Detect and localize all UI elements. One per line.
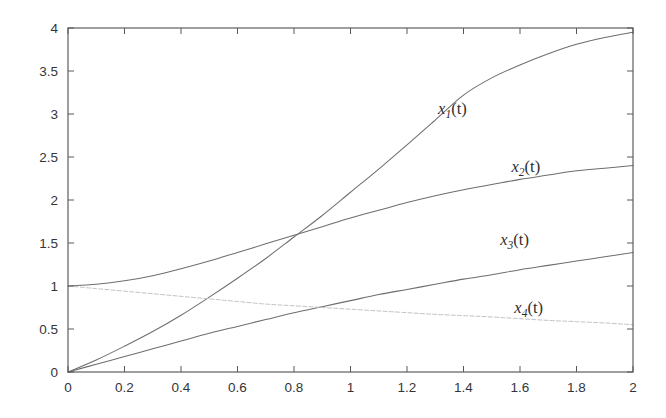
- y-tick-label-6: 3: [50, 107, 58, 122]
- figure-container: 00.20.40.60.811.21.41.61.8200.511.522.53…: [0, 0, 666, 418]
- curve-labels-layer: x1(t)x2(t)x3(t)x4(t): [437, 99, 543, 319]
- x-tick-label-0: 0: [64, 380, 72, 395]
- y-tick-label-2: 1: [50, 279, 58, 294]
- x-tick-label-4: 0.8: [285, 380, 304, 395]
- x-tick-label-10: 2: [629, 380, 637, 395]
- curve-label-3: x3(t): [499, 230, 529, 251]
- y-tick-label-7: 3.5: [39, 64, 58, 79]
- x-tick-label-2: 0.4: [172, 380, 191, 395]
- curve-label-arg-3: (t): [513, 230, 529, 249]
- y-tick-label-0: 0: [50, 365, 58, 380]
- line-chart: 00.20.40.60.811.21.41.61.8200.511.522.53…: [0, 0, 666, 418]
- curve-label-arg-4: (t): [527, 298, 543, 317]
- y-tick-label-3: 1.5: [39, 236, 58, 251]
- x-tick-label-1: 0.2: [115, 380, 134, 395]
- curves-layer: [68, 32, 633, 372]
- y-tick-label-8: 4: [50, 21, 58, 36]
- curve-label-2: x2(t): [511, 157, 541, 178]
- x-tick-label-6: 1.2: [398, 380, 417, 395]
- tick-labels-layer: 00.20.40.60.811.21.41.61.8200.511.522.53…: [39, 21, 637, 395]
- y-tick-label-5: 2.5: [39, 150, 58, 165]
- y-tick-label-4: 2: [50, 193, 58, 208]
- curve-x1t: [68, 32, 633, 372]
- curve-label-arg-1: (t): [451, 99, 467, 118]
- x-tick-label-9: 1.8: [567, 380, 586, 395]
- x-tick-label-5: 1: [347, 380, 355, 395]
- curve-x2t: [68, 166, 633, 286]
- curve-x4t: [68, 286, 633, 325]
- curve-label-4: x4(t): [513, 298, 543, 319]
- curve-label-1: x1(t): [437, 99, 467, 120]
- x-tick-label-7: 1.4: [454, 380, 473, 395]
- curve-x3t: [68, 252, 633, 372]
- y-tick-label-1: 0.5: [39, 322, 58, 337]
- x-tick-label-3: 0.6: [228, 380, 247, 395]
- curve-label-arg-2: (t): [525, 157, 541, 176]
- x-tick-label-8: 1.6: [511, 380, 530, 395]
